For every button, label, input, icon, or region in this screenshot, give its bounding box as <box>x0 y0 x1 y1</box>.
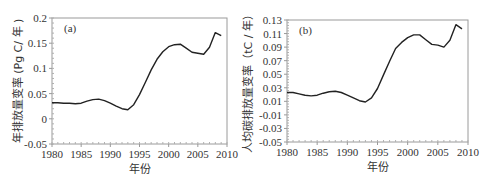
x-tick-label: 2000 <box>397 146 420 158</box>
y-tick-label: 0.2 <box>33 12 47 24</box>
panel-label: (b) <box>299 24 312 37</box>
x-tick-label: 2005 <box>427 146 450 158</box>
chart-b-svg: -0.05-0.03-0.010.010.030.050.070.090.110… <box>240 0 485 188</box>
y-tick-label: 0.05 <box>28 88 48 100</box>
x-axis-label: 年份 <box>129 162 151 176</box>
y-tick-label: 0.15 <box>28 37 48 49</box>
data-line <box>287 25 462 102</box>
y-tick-label: 0.09 <box>263 41 283 53</box>
x-axis-label: 年份 <box>367 160 389 174</box>
y-tick-label: 0.05 <box>263 68 283 80</box>
x-tick-label: 2005 <box>187 148 210 160</box>
chart-a-svg: -0.0500.050.10.150.219801985199019952000… <box>0 0 240 188</box>
x-tick-label: 1990 <box>336 146 359 158</box>
chart-b: -0.05-0.03-0.010.010.030.050.070.090.110… <box>240 0 485 188</box>
y-tick-label: 0.13 <box>263 14 283 26</box>
y-tick-label: 0.11 <box>263 28 282 40</box>
y-tick-label: 0 <box>42 113 48 125</box>
panel-label: (a) <box>64 22 77 35</box>
x-tick-label: 1995 <box>367 146 390 158</box>
x-tick-label: 1980 <box>276 146 299 158</box>
y-axis-label: 年排放量变率 (Pg C/ 年 ) <box>11 19 25 144</box>
x-tick-label: 2000 <box>158 148 181 160</box>
y-tick-label: 0.03 <box>263 82 283 94</box>
chart-a: -0.0500.050.10.150.219801985199019952000… <box>0 0 240 188</box>
data-line <box>52 33 221 110</box>
x-tick-label: 2010 <box>216 148 239 160</box>
y-tick-label: -0.01 <box>259 109 282 121</box>
y-tick-label: 0.01 <box>263 95 282 107</box>
x-tick-label: 1980 <box>41 148 64 160</box>
x-tick-label: 1995 <box>129 148 152 160</box>
y-tick-label: -0.03 <box>259 122 282 134</box>
y-axis-label: 人均碳排放量变率（tC / 年） <box>241 9 255 153</box>
x-tick-label: 2010 <box>457 146 480 158</box>
x-tick-label: 1990 <box>99 148 122 160</box>
plot-frame <box>287 20 468 142</box>
plot-frame <box>52 18 227 144</box>
y-tick-label: 0.1 <box>33 62 47 74</box>
x-tick-label: 1985 <box>70 148 93 160</box>
y-tick-label: 0.07 <box>263 55 283 67</box>
x-tick-label: 1985 <box>306 146 329 158</box>
